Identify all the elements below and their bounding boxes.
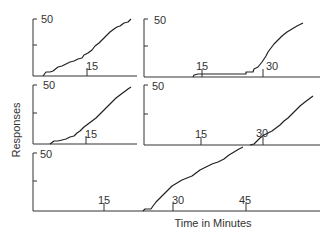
panel-4-axes [144,85,320,145]
panel-1-x15-label: 15 [86,60,98,72]
panel-5-x30-label: 30 [172,194,184,206]
panel-2-x30-label: 30 [266,60,278,72]
x-axis-label: Time in Minutes [174,217,252,229]
panel-4-x15-label: 15 [195,128,207,140]
panel-5-y50-label: 50 [40,148,52,160]
panel-3-y50-label: 50 [43,79,55,91]
panel-5: 50 15 30 45 [33,147,320,211]
panel-4: 50 15 30 [144,80,320,145]
panel-5-curve [143,147,243,211]
y-axis-label: Responses [10,102,22,158]
cumulative-response-chart: Responses 50 15 50 15 30 50 15 50 15 3 [0,0,335,238]
panel-2-curve [193,23,303,77]
panel-1-y50-label: 50 [41,13,53,25]
panel-4-x30-label: 30 [256,127,268,139]
panel-3-x15-label: 15 [85,128,97,140]
panel-5-x15-label: 15 [98,194,110,206]
panel-3: 50 15 [33,79,137,144]
panel-1: 50 15 [33,13,137,76]
panel-2-x15-label: 15 [196,60,208,72]
panel-1-axes [33,19,137,76]
panel-2: 50 15 30 [144,14,320,77]
panel-2-y50-label: 50 [154,14,166,26]
panel-5-x45-label: 45 [239,194,251,206]
panel-4-y50-label: 50 [152,80,164,92]
